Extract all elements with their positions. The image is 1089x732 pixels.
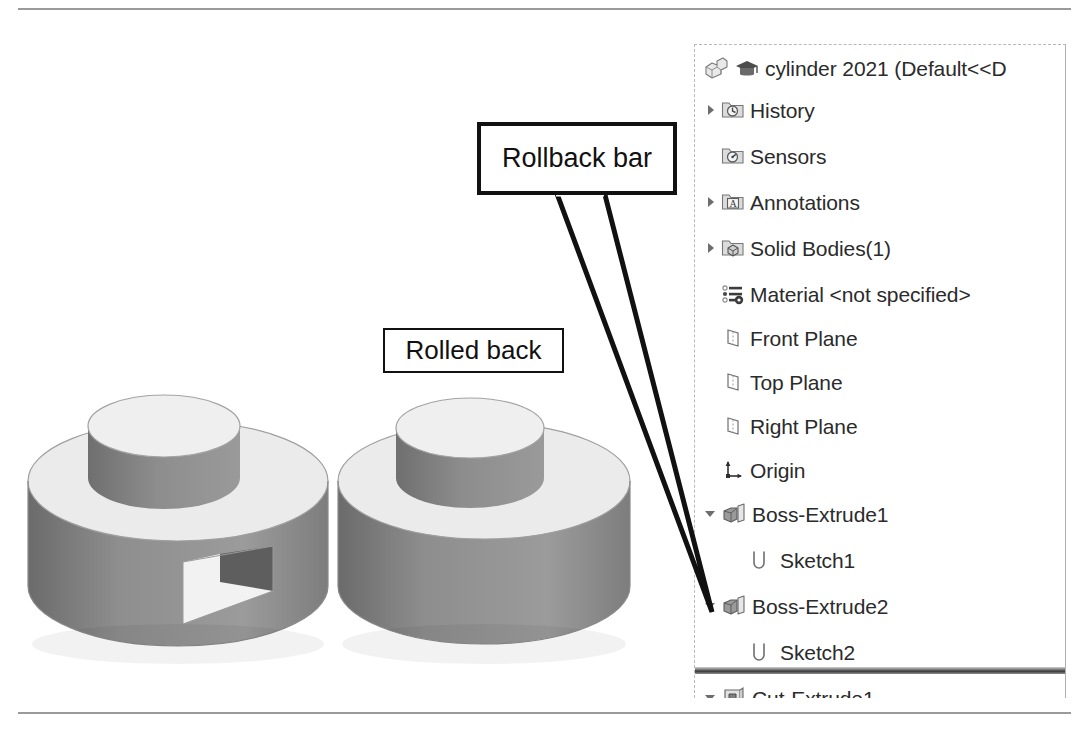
svg-text:A: A (729, 198, 737, 209)
tree-row-top-plane[interactable]: Top Plane (703, 363, 843, 401)
plane-icon (721, 370, 745, 394)
chevron-down-icon[interactable] (703, 690, 719, 698)
chevron-right-icon[interactable] (703, 240, 719, 256)
plane-icon (721, 414, 745, 438)
tree-row-origin[interactable]: Origin (703, 451, 805, 489)
callout-rollback-bar-label: Rollback bar (502, 143, 652, 174)
label-rolled-back: Rolled back (383, 328, 564, 373)
no-toggle-spacer (703, 462, 719, 478)
rollback-bar[interactable] (695, 667, 1066, 674)
label-rolled-back-text: Rolled back (406, 335, 542, 366)
tree-label-cut-extrude1: Cut-Extrude1 (752, 688, 875, 699)
chevron-down-icon[interactable] (703, 506, 719, 522)
feature-tree-list: cylinder 2021 (Default<<D History (695, 45, 1065, 698)
page-root: Rollback bar Rolled back (0, 0, 1089, 732)
tree-label-boss-extrude2: Boss-Extrude2 (752, 596, 888, 617)
boss-extrude-icon (721, 594, 747, 618)
tree-label-front-plane: Front Plane (750, 328, 857, 349)
tree-label-top-plane: Top Plane (750, 372, 843, 393)
tree-label-history: History (750, 100, 815, 121)
sketch-icon (749, 640, 775, 664)
tree-label-sketch1: Sketch1 (780, 550, 855, 571)
tree-row-sensors[interactable]: Sensors (703, 137, 826, 175)
solid-bodies-folder-icon (721, 236, 745, 260)
document-title: cylinder 2021 (Default<<D (765, 58, 1006, 79)
cut-extrude-icon (721, 686, 747, 698)
tree-label-sensors: Sensors (750, 146, 826, 167)
no-toggle-spacer (703, 418, 719, 434)
sketch-icon (749, 548, 775, 572)
tree-label-right-plane: Right Plane (750, 416, 857, 437)
boss-extrude-icon (721, 502, 747, 526)
chevron-down-icon[interactable] (703, 598, 719, 614)
model-cylinder-rolled-back (332, 386, 632, 686)
chevron-right-icon[interactable] (703, 102, 719, 118)
part-icon (703, 55, 729, 81)
tree-label-solid-bodies: Solid Bodies(1) (750, 238, 891, 259)
tree-label-boss-extrude1: Boss-Extrude1 (752, 504, 888, 525)
history-folder-icon (721, 98, 745, 122)
no-toggle-spacer (703, 148, 719, 164)
material-icon (721, 282, 745, 306)
feature-manager-tree-panel[interactable]: cylinder 2021 (Default<<D History (694, 44, 1066, 698)
tree-label-material: Material <not specified> (750, 284, 971, 305)
origin-icon (721, 458, 745, 482)
model-cylinder-with-cut (20, 386, 330, 686)
annotations-folder-icon: A (721, 190, 745, 214)
no-toggle-spacer (703, 330, 719, 346)
bottom-divider (18, 712, 1071, 714)
tree-row-boss-extrude2[interactable]: Boss-Extrude2 (703, 587, 888, 625)
tree-row-cut-extrude1[interactable]: Cut-Extrude1 (703, 679, 875, 698)
tree-row-annotations[interactable]: A Annotations (703, 183, 860, 221)
tree-row-history[interactable]: History (703, 91, 815, 129)
tree-row-sketch2[interactable]: Sketch2 (749, 633, 855, 671)
tree-row-document[interactable]: cylinder 2021 (Default<<D (703, 49, 1006, 87)
no-toggle-spacer (703, 374, 719, 390)
tree-row-boss-extrude1[interactable]: Boss-Extrude1 (703, 495, 888, 533)
tree-label-origin: Origin (750, 460, 805, 481)
callout-rollback-bar: Rollback bar (477, 122, 677, 195)
no-toggle-spacer (703, 286, 719, 302)
tree-row-front-plane[interactable]: Front Plane (703, 319, 857, 357)
tree-row-material[interactable]: Material <not specified> (703, 275, 971, 313)
tree-row-solid-bodies[interactable]: Solid Bodies(1) (703, 229, 891, 267)
top-divider (18, 8, 1071, 10)
tree-row-sketch1[interactable]: Sketch1 (749, 541, 855, 579)
sensors-folder-icon (721, 144, 745, 168)
chevron-right-icon[interactable] (703, 194, 719, 210)
graduation-cap-icon (734, 55, 760, 81)
tree-label-sketch2: Sketch2 (780, 642, 855, 663)
tree-label-annotations: Annotations (750, 192, 860, 213)
tree-row-right-plane[interactable]: Right Plane (703, 407, 857, 445)
plane-icon (721, 326, 745, 350)
